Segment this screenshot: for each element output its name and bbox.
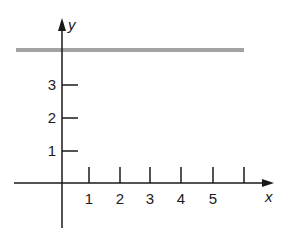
y-tick-label-3: 3 — [48, 76, 56, 93]
x-axis-label: x — [264, 188, 273, 205]
x-tick-label-2: 2 — [116, 190, 124, 207]
y-axis-arrow-icon — [58, 18, 66, 31]
y-tick-label-1: 1 — [48, 142, 56, 159]
x-ticks — [89, 167, 244, 183]
x-axis-arrow-icon — [262, 179, 274, 187]
y-ticks — [62, 85, 78, 151]
x-tick-label-4: 4 — [177, 190, 185, 207]
x-tick-label-3: 3 — [146, 190, 154, 207]
y-tick-label-2: 2 — [48, 109, 56, 126]
chart: 1 2 3 4 5 1 2 3 y x — [0, 0, 290, 234]
x-tick-label-1: 1 — [85, 190, 93, 207]
y-axis-label: y — [67, 16, 77, 33]
x-tick-label-5: 5 — [209, 190, 217, 207]
